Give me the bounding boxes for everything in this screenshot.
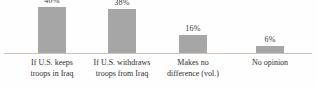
bar — [179, 35, 207, 53]
bar-value-label: 38% — [114, 0, 129, 7]
bar-value-label: 40% — [44, 0, 59, 5]
category-label-line: No opinion — [231, 57, 309, 68]
plot-area: 40% 38% 16% 6% — [0, 0, 318, 54]
bar — [256, 46, 284, 53]
category-label-line: difference (vol.) — [154, 68, 232, 79]
category-label-line: Makes no — [154, 57, 232, 68]
category-label: If U.S. keeps troops in Iraq — [13, 57, 91, 79]
bar-value-label: 16% — [185, 24, 200, 33]
bar-group: 6% — [231, 0, 309, 54]
bar-group: 38% — [83, 0, 161, 54]
category-label-line: troops in Iraq — [13, 68, 91, 79]
category-labels: If U.S. keeps troops in Iraq If U.S. wit… — [0, 57, 318, 87]
bar-value-label: 6% — [264, 35, 275, 44]
bar-chart: 40% 38% 16% 6% If U.S. keeps troops in I… — [0, 0, 318, 87]
bar-group: 16% — [154, 0, 232, 54]
bar — [108, 9, 136, 53]
category-label-line: If U.S. keeps — [13, 57, 91, 68]
bar-group: 40% — [13, 0, 91, 54]
category-label: If U.S. withdraws troops from Iraq — [83, 57, 161, 79]
bar — [38, 7, 66, 53]
category-label: Makes no difference (vol.) — [154, 57, 232, 79]
category-label-line: If U.S. withdraws — [83, 57, 161, 68]
category-label: No opinion — [231, 57, 309, 68]
x-axis-line — [4, 53, 312, 54]
category-label-line: troops from Iraq — [83, 68, 161, 79]
